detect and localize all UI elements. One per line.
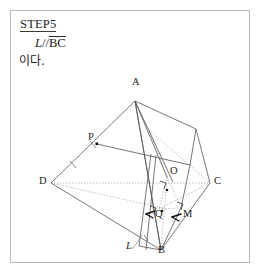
vertex-dots	[96, 143, 169, 213]
edge-plane-right-peak	[190, 129, 196, 165]
edge-a-o	[135, 101, 167, 177]
edge-cut-left2	[146, 155, 156, 250]
vertex-label-o: O	[170, 166, 178, 176]
content-frame: STEP5 L//BC 이다.	[10, 10, 250, 263]
edge-cut-m-up	[181, 165, 190, 208]
solid-edges	[51, 101, 210, 250]
edge-a-d	[51, 101, 135, 183]
vertex-label-m: M	[183, 209, 192, 219]
edge-d-b	[51, 183, 161, 250]
right-angle-at-o	[160, 181, 166, 189]
geometry-figure	[22, 22, 260, 273]
vertex-label-b: B	[158, 245, 165, 255]
edge-p-plane-right	[97, 144, 190, 165]
vertex-label-q: Q	[155, 209, 163, 219]
dot-p	[96, 143, 99, 146]
vertex-label-a: A	[132, 77, 140, 87]
edge-a-mid	[135, 101, 173, 182]
vertex-label-l: L	[126, 241, 132, 251]
edge-a-q	[135, 101, 156, 221]
congruence-tick-marks	[70, 141, 148, 241]
dotted-line-o-m	[167, 177, 181, 208]
page-root: STEP5 L//BC 이다.	[0, 0, 262, 275]
hidden-construction-lines	[51, 130, 210, 250]
vertex-label-c: C	[214, 176, 221, 186]
vertex-label-p: P	[88, 132, 94, 142]
edge-peak-down	[196, 129, 210, 183]
leader-curve-l	[132, 235, 142, 249]
vertex-label-d: D	[39, 176, 47, 186]
edge-a-peak	[135, 101, 196, 129]
dotted-line-q-c	[159, 183, 210, 209]
edge-cut-left	[139, 154, 151, 246]
arrow-mark-q	[146, 211, 155, 214]
dot-o	[166, 189, 169, 192]
